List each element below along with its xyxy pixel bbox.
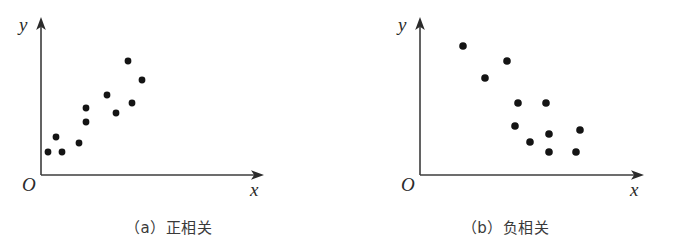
datapoint — [59, 149, 66, 156]
scatter-plot-b: y x O — [337, 0, 674, 243]
x-axis-label-b: x — [629, 179, 639, 200]
datapoint — [511, 122, 519, 130]
datapoint — [125, 58, 132, 65]
origin-label-b: O — [401, 174, 415, 195]
datapoint — [576, 126, 584, 134]
datapoint — [104, 92, 111, 99]
datapoint — [526, 138, 534, 146]
datapoint — [481, 74, 489, 82]
datapoint — [129, 100, 136, 107]
datapoint — [545, 130, 553, 138]
datapoint — [459, 42, 467, 50]
panel-negative-correlation: y x O （b）负相关 — [337, 0, 674, 243]
datapoint — [53, 134, 60, 141]
x-axis-label-a: x — [249, 179, 259, 200]
y-axis-label-a: y — [17, 14, 28, 35]
datapoint — [139, 77, 146, 84]
caption-b: （b）负相关 — [337, 216, 674, 237]
datapoint — [503, 57, 511, 65]
scatter-plot-a: y x O — [0, 0, 337, 243]
datapoint — [545, 148, 553, 156]
datapoint — [76, 140, 83, 147]
correlation-scatter-figure: y x O （a）正相关 — [0, 0, 674, 243]
datapoint — [514, 99, 522, 107]
y-axis-label-b: y — [396, 14, 407, 35]
panel-positive-correlation: y x O （a）正相关 — [0, 0, 337, 243]
datapoint — [572, 148, 580, 156]
datapoint — [83, 119, 90, 126]
datapoint-group-b — [459, 42, 584, 156]
caption-a: （a）正相关 — [0, 216, 337, 237]
datapoint — [113, 110, 120, 117]
datapoint — [83, 105, 90, 112]
datapoint — [542, 99, 550, 107]
datapoint-group-a — [45, 58, 146, 156]
origin-label-a: O — [22, 174, 36, 195]
datapoint — [45, 149, 52, 156]
